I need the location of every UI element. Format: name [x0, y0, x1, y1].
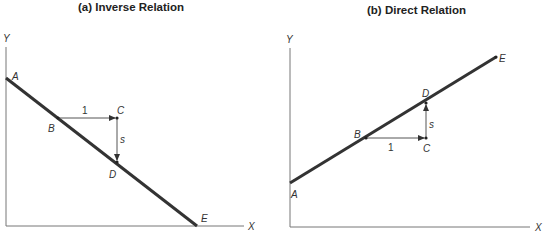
point-e [494, 55, 497, 58]
label-e: E [499, 53, 506, 64]
x-axis-label: X [534, 222, 542, 233]
direct-line [290, 57, 496, 183]
point-b [56, 116, 59, 119]
y-axis-label: Y [3, 33, 11, 44]
rise-label: s [120, 134, 125, 145]
point-c [115, 116, 118, 119]
run-label: 1 [388, 142, 394, 153]
point-d [424, 101, 427, 104]
label-e: E [201, 213, 208, 224]
label-c: C [117, 105, 125, 116]
panel-b-direct-relation: Y X A B C D E 1 s [286, 34, 542, 233]
label-b: B [48, 123, 55, 134]
point-b [364, 136, 367, 139]
x-axis-label: X [247, 221, 255, 232]
diagram-canvas: Y X A B C D E 1 s Y X A B C D E 1 s [0, 0, 547, 240]
point-d [115, 160, 118, 163]
label-a: A [11, 71, 19, 82]
point-c [424, 136, 427, 139]
label-b: B [354, 129, 361, 140]
label-c: C [423, 143, 431, 154]
label-d: D [109, 169, 116, 180]
panel-a-inverse-relation: Y X A B C D E 1 s [3, 33, 255, 232]
label-d: D [422, 88, 429, 99]
rise-label: s [429, 119, 434, 130]
y-axis-label: Y [286, 34, 294, 45]
run-label: 1 [82, 105, 88, 116]
label-a: A [290, 189, 298, 200]
inverse-line [6, 78, 197, 226]
